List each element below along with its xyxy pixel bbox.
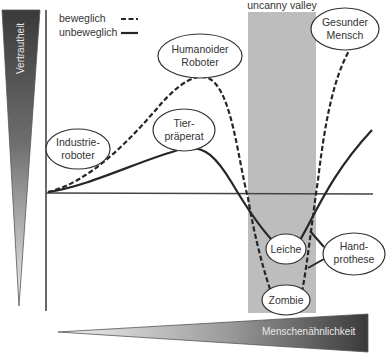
svg-text:Mensch: Mensch [327, 29, 364, 41]
y-axis-label: Vertrautheit [15, 23, 26, 74]
node-industrieroboter: Industrie- roboter [46, 129, 110, 169]
node-leiche: Leiche [266, 234, 306, 264]
svg-text:Roboter: Roboter [181, 56, 219, 68]
uncanny-valley-label: uncanny valley [247, 0, 317, 11]
svg-text:Gesunder: Gesunder [322, 16, 369, 28]
svg-text:Industrie-: Industrie- [56, 136, 100, 148]
svg-text:roboter: roboter [61, 149, 95, 161]
svg-text:Leiche: Leiche [271, 243, 302, 255]
svg-text:präperat: präperat [164, 130, 203, 142]
node-humanoider-roboter: Humanoider Roboter [158, 34, 242, 78]
svg-text:Hand-: Hand- [340, 240, 369, 252]
svg-text:Humanoider: Humanoider [171, 43, 229, 55]
legend-still-label: unbeweglich [59, 26, 118, 38]
node-handprothese: Hand- prothese [323, 233, 385, 275]
node-zombie: Zombie [262, 285, 310, 315]
svg-text:Tier-: Tier- [173, 117, 195, 129]
x-axis-label: Menschenähnlichkeit [262, 326, 356, 337]
node-gesunder-mensch: Gesunder Mensch [311, 8, 379, 50]
node-tierpraeparat: Tier- präperat [153, 109, 215, 151]
svg-text:prothese: prothese [334, 253, 375, 265]
svg-text:Zombie: Zombie [268, 294, 303, 306]
uncanny-valley-diagram: uncanny valley Vertrautheit Menschenähnl… [0, 0, 392, 354]
legend-moving-label: beweglich [59, 12, 106, 24]
